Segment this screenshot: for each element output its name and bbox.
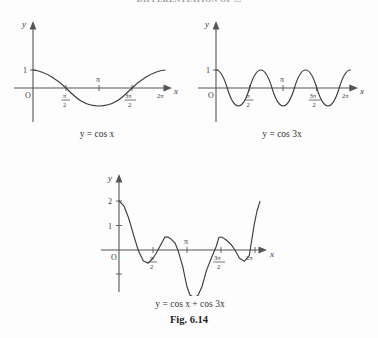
svg-text:3π: 3π (214, 254, 221, 261)
origin-label-cos-x: O (25, 91, 31, 100)
svg-text:2: 2 (313, 101, 316, 108)
svg-text:2: 2 (108, 197, 112, 206)
x-tick-label-2pi-cos-x: 2π (157, 92, 164, 99)
plot-cos-x-plus-cos-3x: y x O 2 1 π 2 π (95, 168, 285, 296)
x-axis-cos-3x (198, 85, 358, 92)
x-tick-label-pi-over-2-cos-x: π 2 (62, 92, 71, 108)
svg-text:1: 1 (206, 66, 210, 75)
svg-text:2: 2 (128, 101, 131, 108)
figure-panel-sum: y x O 2 1 π 2 π (95, 168, 285, 296)
caption-cos-x: y = cos x (8, 129, 186, 139)
y-axis-cos-3x (213, 21, 220, 122)
x-axis-label-sum: x (269, 249, 274, 259)
x-axis-cos-x (14, 85, 172, 92)
figure-number-label: Fig. 6.14 (0, 314, 378, 325)
origin-label-sum: O (111, 253, 117, 262)
caption-cos-3x: y = cos 3x (192, 129, 372, 139)
plot-cos-x: y x O 1 π 2 π 3π (8, 14, 186, 126)
figure-panel-cos-x: y x O 1 π 2 π 3π (8, 14, 186, 126)
svg-text:1: 1 (108, 222, 112, 231)
x-tick-label-3pi-over-2-cos-x: 3π 2 (125, 92, 137, 108)
x-tick-label-pi-sum: π (184, 237, 188, 246)
origin-label-cos-3x: O (208, 91, 214, 100)
svg-text:3π: 3π (310, 92, 317, 99)
x-axis-sum (101, 247, 267, 254)
x-axis-label-cos-x: x (173, 86, 178, 96)
running-header: DIFFERENTIATION OF ... (0, 0, 378, 3)
x-axis-label-cos-3x: x (359, 86, 364, 96)
svg-text:2: 2 (247, 101, 250, 108)
y-axis-label-cos-3x: y (204, 19, 209, 29)
figure-panel-cos-3x: y x O 1 π 2 π 3π 2 2π (192, 14, 372, 126)
x-tick-label-pi-cos-x: π (96, 75, 100, 84)
svg-text:π: π (63, 92, 67, 99)
x-tick-label-3pi-over-2-sum: 3π 2 (214, 254, 226, 270)
x-tick-label-2pi-cos-3x: 2π (342, 92, 349, 99)
y-axis-cos-x (30, 21, 37, 122)
figure-page: DIFFERENTIATION OF ... y x O 1 (0, 0, 378, 338)
svg-text:2: 2 (217, 263, 220, 270)
y-axis-label-cos-x: y (21, 19, 26, 29)
svg-text:2: 2 (150, 263, 153, 270)
caption-sum: y = cos x + cos 3x (85, 299, 295, 309)
x-tick-label-pi-over-2-cos-3x: π 2 (245, 92, 254, 108)
plot-cos-3x: y x O 1 π 2 π 3π 2 2π (192, 14, 372, 126)
y-axis-label-sum: y (107, 173, 112, 183)
x-tick-label-pi-cos-3x: π (280, 75, 284, 84)
y-tick-1-sum: 1 (108, 222, 122, 231)
curve-cos-x-plus-cos-3x (119, 201, 260, 296)
svg-text:2: 2 (63, 101, 66, 108)
svg-text:1: 1 (23, 66, 27, 75)
